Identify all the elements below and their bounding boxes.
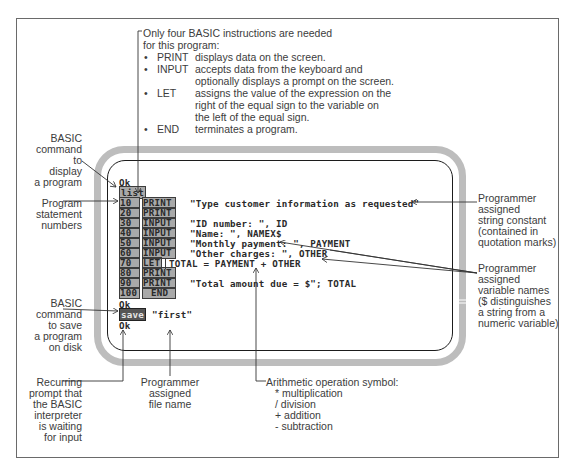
- leader-lines: [0, 0, 578, 469]
- instruction-leader: [138, 31, 142, 193]
